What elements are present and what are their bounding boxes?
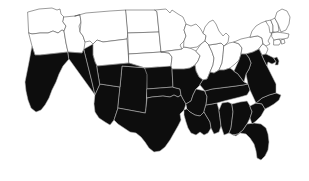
state-wy: Wyoming [93, 39, 129, 66]
state-nd: North Dakota [126, 10, 159, 33]
state-wa: Washington [28, 8, 66, 34]
state-or: Oregon [29, 30, 68, 55]
state-ri: Rhode Island [281, 39, 285, 44]
us-choropleth-map-figure: WashingtonOregonIdahoMontanaWyomingNorth… [0, 0, 309, 181]
state-nm: New Mexico [118, 66, 148, 113]
state-sd: South Dakota [128, 32, 161, 54]
state-ks: Kansas [145, 66, 173, 89]
us-map-svg: WashingtonOregonIdahoMontanaWyomingNorth… [0, 0, 309, 181]
